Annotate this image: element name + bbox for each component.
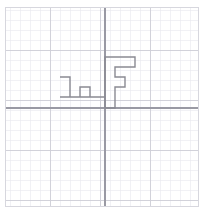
plot-root: graph-paper-polygon	[0, 0, 205, 212]
graph-paper-canvas	[0, 0, 205, 212]
